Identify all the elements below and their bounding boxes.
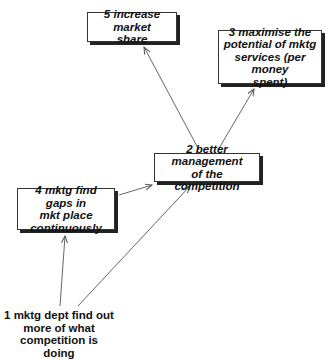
node-5-increase-market-share: 5 increase market share [87,12,177,42]
node-3-line: spent) [222,76,318,89]
node-3-line: potential of mktg [222,38,318,51]
node-2-better-management: 2 better management of the competition [154,153,260,182]
node-1-line: more of what [4,322,114,335]
edge-2-to-5 [144,47,199,150]
node-5-line: share [91,33,173,46]
node-3-line: 3 maximise the [222,26,318,39]
node-2-line: 2 better management [158,143,256,168]
node-3-line: services (per money [222,51,318,76]
node-4-line: mkt place [21,209,111,222]
node-4-line: 4 mktg find gaps in [21,184,111,209]
node-1-find-out-competition: 1 mktg dept find out more of what compet… [4,309,114,359]
node-3-maximise-potential: 3 maximise the potential of mktg service… [218,30,322,84]
node-2-line: of the competition [158,168,256,193]
node-5-line: 5 increase market [91,8,173,33]
node-1-line: competition is doing [4,334,114,359]
node-4-find-gaps: 4 mktg find gaps in mkt place continuous… [17,188,115,230]
node-4-line: continuously [21,222,111,235]
node-1-line: 1 mktg dept find out [4,309,114,322]
edge-2-to-3 [218,89,254,150]
edge-1-to-4 [60,236,65,306]
edge-4-to-2 [119,185,152,195]
